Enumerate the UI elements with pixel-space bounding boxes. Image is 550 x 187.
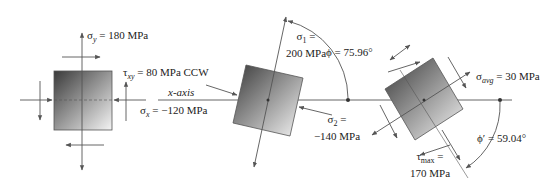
- sigma-y-label: σy = 180 MPa: [87, 29, 148, 46]
- phi-prime-label: ϕ′ = 59.04°: [477, 132, 526, 144]
- element-original: [20, 33, 146, 170]
- sigma-x-label: σx = −120 MPa: [140, 104, 207, 121]
- tau-max-label: τmax =170 MPa: [410, 150, 450, 179]
- phi-label: ϕ = 75.96°: [326, 46, 373, 58]
- sigma1-label: σ1 =200 MPa: [283, 30, 329, 59]
- sigma2-label: σ2 =−140 MPa: [313, 113, 361, 142]
- x-axis-label: x-axis: [168, 86, 194, 98]
- tau-xy-label: τxy = 80 MPa CCW: [123, 66, 209, 83]
- sigma-avg-label: σavg = 30 MPa: [476, 70, 540, 87]
- stress-diagram: [0, 0, 550, 187]
